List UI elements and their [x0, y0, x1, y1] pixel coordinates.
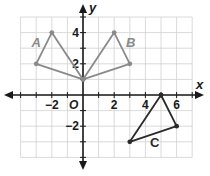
x-tick-label: 2	[111, 98, 118, 112]
x-axis-label: x	[195, 77, 204, 92]
x-tick-label: 6	[173, 98, 180, 112]
y-axis-down-arrow-icon	[79, 161, 87, 170]
vertex-point	[174, 124, 179, 129]
x-axis-right-arrow-icon	[195, 91, 204, 99]
vertex-point	[34, 61, 39, 66]
x-tick-label: 4	[142, 98, 149, 112]
figure-b: B	[81, 30, 136, 82]
origin-label: O	[69, 98, 79, 112]
figure-label-b: B	[126, 35, 135, 50]
vertex-point	[127, 61, 132, 66]
vertex-point	[81, 77, 86, 82]
y-tick-label: −2	[65, 119, 79, 133]
coordinate-plane: −224642−2 ABC x y O	[0, 0, 210, 176]
triangle-b	[83, 33, 130, 80]
x-tick-label: −2	[45, 98, 59, 112]
y-tick-label: 4	[72, 26, 79, 40]
vertex-point	[112, 30, 117, 35]
x-axis-left-arrow-icon	[4, 91, 13, 99]
y-axis-up-arrow-icon	[79, 4, 87, 13]
vertex-point	[159, 93, 164, 98]
figure-label-c: C	[150, 135, 160, 150]
y-axis-label: y	[88, 0, 97, 15]
grid-lines	[21, 17, 193, 157]
vertex-point	[127, 139, 132, 144]
vertex-point	[49, 30, 54, 35]
axis-ticks: −224642−2	[21, 17, 193, 157]
figure-label-a: A	[31, 35, 41, 50]
axes	[4, 4, 204, 170]
